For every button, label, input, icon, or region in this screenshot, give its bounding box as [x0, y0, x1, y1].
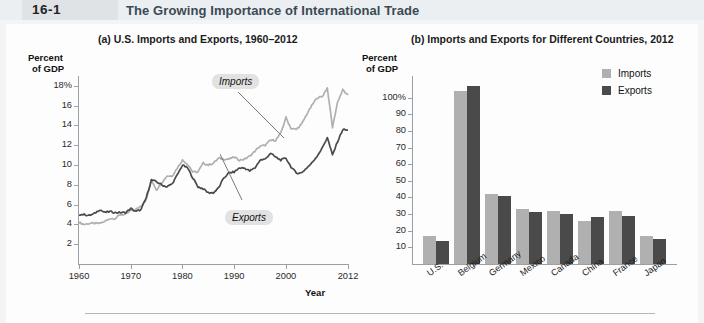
callout-exports: Exports: [225, 210, 273, 225]
bottom-rule: [85, 313, 655, 314]
panel-a-ylabel-line1: Percent: [28, 52, 63, 64]
panel-a-xtick-label: 1960: [57, 271, 101, 281]
panel-a-ytick-label: 10: [36, 159, 72, 169]
panel-a-xtick-label: 1990: [212, 271, 256, 281]
panel-b-ytick-label: 80: [362, 125, 406, 135]
panel-b-ytick-label: 60: [362, 158, 406, 168]
bar-imports-china: [578, 221, 591, 264]
panel-a-ytick-label: 16: [36, 100, 72, 110]
page-edge-left: [0, 0, 6, 323]
figure-header: 16-1 The Growing Importance of Internati…: [0, 0, 704, 22]
panel-a-ytick-label: 8: [36, 179, 72, 189]
panel-b-ytick-label: 10: [362, 241, 406, 251]
legend-label-exports: Exports: [618, 85, 652, 96]
panel-a-ytick-label: 14: [36, 119, 72, 129]
callout-imports: Imports: [212, 74, 259, 89]
figure-number: 16-1: [32, 2, 61, 17]
figure-container: 16-1 The Growing Importance of Internati…: [0, 0, 704, 323]
bar-imports-france: [609, 211, 622, 264]
panel-b-ytick-label: 40: [362, 191, 406, 201]
panel-b-ytick-label: 20: [362, 225, 406, 235]
panel-b-bars: [413, 75, 677, 264]
panel-b-ytick-label: 70: [362, 142, 406, 152]
panel-b-ytick-label: 30: [362, 208, 406, 218]
panel-b-x-axis: [412, 264, 677, 265]
header-understrip: [0, 20, 704, 24]
panel-a-xtick-label: 2012: [326, 271, 370, 281]
panel-a-xtick-label: 2000: [264, 271, 308, 281]
panel-b-title: (b) Imports and Exports for Different Co…: [411, 33, 674, 45]
panel-b-ytick-label: 90: [362, 108, 406, 118]
panel-b-ylabel-line2: of GDP: [366, 63, 398, 75]
bar-imports-us: [423, 236, 436, 264]
panel-a-ytick-label: 4: [36, 218, 72, 228]
panel-a-xlabel: Year: [305, 287, 325, 299]
page-edge-right: [698, 0, 704, 323]
legend-label-imports: Imports: [618, 68, 651, 79]
bar-imports-belgium: [454, 91, 467, 264]
panel-a-ytick-label: 6: [36, 199, 72, 209]
panel-a-ylabel-line2: of GDP: [32, 63, 64, 75]
legend-swatch-exports: [602, 86, 611, 95]
panel-a-xtick-label: 1980: [160, 271, 204, 281]
bar-exports-belgium: [467, 86, 480, 264]
panel-a-xtick-label: 1970: [109, 271, 153, 281]
panel-a-ytick-label: 2: [36, 238, 72, 248]
panel-b-ytick-label: 100%: [362, 92, 406, 102]
panel-a-ytick-label: 18%: [36, 80, 72, 90]
panel-b-ytick-label: 50: [362, 175, 406, 185]
bar-imports-japan: [640, 236, 653, 264]
panel-b-ylabel-line1: Percent: [362, 52, 397, 64]
panel-a-title: (a) U.S. Imports and Exports, 1960–2012: [98, 33, 298, 45]
bar-imports-germany: [485, 194, 498, 264]
legend-swatch-imports: [602, 69, 611, 78]
panel-a-ytick-label: 12: [36, 139, 72, 149]
bar-imports-canada: [547, 211, 560, 264]
figure-title: The Growing Importance of International …: [126, 3, 419, 18]
